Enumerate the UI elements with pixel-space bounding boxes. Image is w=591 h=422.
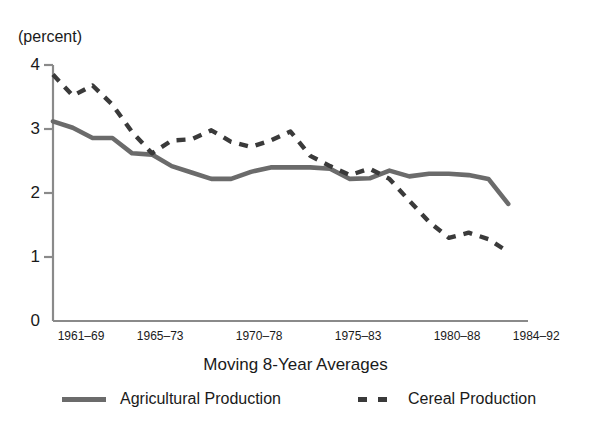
y-axis-tick-label: 2 [14, 183, 40, 203]
x-axis-title: Moving 8-Year Averages [0, 355, 591, 375]
chart-legend: Agricultural Production Cereal Productio… [0, 386, 591, 412]
x-axis-tick-label: 1961–69 [58, 329, 105, 343]
series-line [53, 75, 508, 252]
x-axis-tick-label: 1980–88 [434, 329, 481, 343]
y-axis-tick-label: 1 [14, 247, 40, 267]
series-line [53, 121, 508, 204]
legend-item-cereal-production: Cereal Production [350, 386, 536, 412]
y-axis-tick-label: 4 [14, 55, 40, 75]
chart-figure: (percent) 01234 1961–691965–731970–78197… [0, 0, 591, 422]
y-axis-tick-label: 3 [14, 119, 40, 139]
y-axis-tick-label: 0 [14, 311, 40, 331]
solid-line-swatch-icon [62, 386, 106, 412]
axis-lines [44, 65, 528, 321]
x-axis-tick-label: 1965–73 [137, 329, 184, 343]
x-axis-tick-label: 1984–92 [513, 329, 560, 343]
legend-label-agricultural-production: Agricultural Production [120, 390, 281, 408]
y-axis-unit-label: (percent) [18, 28, 82, 46]
dashed-line-swatch-icon [350, 386, 394, 412]
legend-item-agricultural-production: Agricultural Production [62, 386, 281, 412]
legend-label-cereal-production: Cereal Production [408, 390, 536, 408]
x-axis-tick-label: 1970–78 [236, 329, 283, 343]
x-axis-tick-label: 1975–83 [335, 329, 382, 343]
series-lines [53, 75, 508, 252]
